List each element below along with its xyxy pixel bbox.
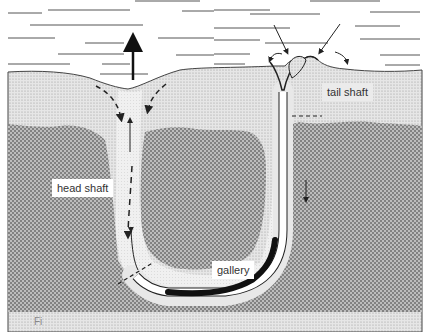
burrow-diagram: tail shaft head shaft gallery Fi [0,0,429,332]
figure-caption-fragment: Fi [34,316,42,327]
sediment-core [141,127,266,269]
outflow-arrow-right [335,52,347,62]
label-head-shaft: head shaft [52,179,113,197]
water-lines [8,1,420,74]
label-gallery: gallery [212,261,254,279]
inflow-arrow-right [320,24,340,52]
diagram-canvas [0,0,429,332]
label-tail-shaft: tail shaft [322,83,373,101]
inflow-arrow-left [274,25,287,52]
outflow-arrow-left [270,53,282,60]
